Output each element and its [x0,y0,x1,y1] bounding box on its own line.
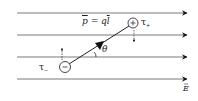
torque-minus-label: τ− [39,63,48,73]
dipole-moment-label: p = ql [82,17,110,26]
l-symbol: l [107,16,110,26]
equals-sign: = [88,16,101,26]
angle-label: θ [102,45,107,54]
field-label: E [183,85,189,93]
angle-arc [94,52,96,57]
tau-subscript: + [146,22,150,28]
tau-subscript: − [44,67,48,73]
torque-plus-label: τ+ [141,18,150,28]
